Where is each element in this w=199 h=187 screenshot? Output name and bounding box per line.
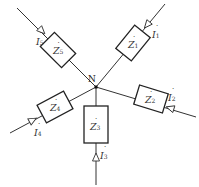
current-label-1: I1 [151,29,160,40]
node-label: N [88,74,96,84]
svg-text:·: · [38,120,40,128]
current-label-2: I2 [167,92,176,103]
current-label-3: I3 [99,150,108,161]
svg-text:·: · [40,29,42,37]
svg-text:·: · [172,85,174,93]
svg-text:·: · [104,143,106,151]
current-label-4: I4 [33,127,42,138]
current-label-5: I5 [35,36,44,47]
arrow-icon-branch-4 [28,115,38,125]
circuit-svg: N · Z5 · Z1 · Z2 · Z3 · Z4 · I5 · I1 · I… [0,0,199,187]
svg-text:·: · [156,22,158,30]
arrow-icon-branch-5 [37,26,48,37]
star-circuit-diagram: N · Z5 · Z1 · Z2 · Z3 · Z4 · I5 · I1 · I… [0,0,199,187]
node-dot [95,86,98,89]
arrow-icon-branch-3 [93,153,100,161]
